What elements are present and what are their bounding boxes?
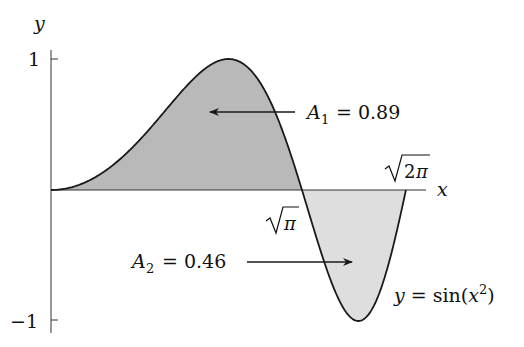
svg-text:π: π — [415, 161, 429, 182]
svg-text:2: 2 — [404, 161, 415, 182]
y-tick-label-1: 1 — [28, 48, 40, 70]
svg-text:1: 1 — [321, 112, 329, 127]
svg-text:= 0.46: = 0.46 — [162, 250, 226, 272]
x-axis-label: x — [437, 178, 448, 200]
region-a1-fill — [51, 59, 302, 190]
a1-annotation: A 1 = 0.89 — [305, 101, 400, 127]
svg-text:A: A — [305, 101, 321, 123]
svg-text:y = sin(x2): y = sin(x2) — [393, 282, 495, 306]
svg-text:2: 2 — [146, 261, 154, 276]
y-axis-label: y — [33, 12, 45, 34]
y-tick-label-neg1: −1 — [10, 310, 38, 332]
sqrt-2pi-label: 2 π — [385, 155, 430, 182]
sqrt-pi-label: π — [266, 207, 299, 234]
svg-text:= 0.89: = 0.89 — [336, 101, 400, 123]
sin-x-squared-diagram: y x 1 −1 π 2 π A 1 = 0.89 A 2 = 0.46 y =… — [0, 0, 524, 347]
svg-text:π: π — [283, 213, 297, 234]
function-label: y = sin(x2) — [393, 282, 495, 306]
a2-annotation: A 2 = 0.46 — [130, 250, 226, 276]
svg-text:A: A — [130, 250, 146, 272]
